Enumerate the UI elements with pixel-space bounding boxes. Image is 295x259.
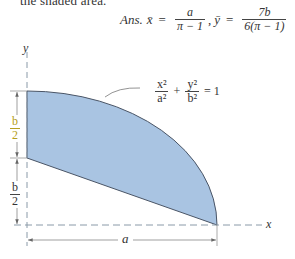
shaded-area — [27, 91, 217, 225]
x-axis-label: x — [266, 217, 271, 232]
figure — [0, 0, 295, 259]
dim-upper-label: b 2 — [10, 115, 20, 142]
equation-leader — [105, 88, 140, 97]
y-axis-label: y — [23, 41, 28, 56]
dim-width-label: a — [118, 231, 133, 247]
ellipse-equation: x² a² + y² b² = 1 — [152, 78, 220, 105]
dim-lower-label: b 2 — [10, 181, 20, 208]
